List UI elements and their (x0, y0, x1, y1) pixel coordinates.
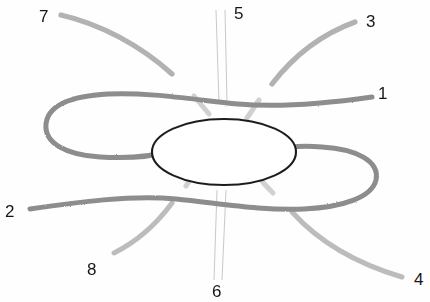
label-7: 7 (39, 8, 48, 25)
central-ellipse (152, 119, 296, 185)
label-4: 4 (414, 271, 423, 288)
diagonal-stroke-3 (272, 22, 355, 84)
diagonal-stroke-8 (114, 203, 172, 253)
label-3: 3 (366, 13, 375, 30)
figure-svg (0, 0, 430, 302)
label-1: 1 (378, 85, 387, 102)
diagonal-stroke-4 (292, 212, 402, 277)
diagram-canvas: 1 2 3 4 5 6 7 8 (0, 0, 430, 302)
thin-vertical-lines-5-group (216, 10, 227, 103)
thin-line-5b (225, 10, 227, 103)
label-5: 5 (234, 5, 243, 22)
diagonal-stroke-7 (61, 15, 172, 74)
thin-line-5a (216, 10, 219, 103)
label-6: 6 (212, 283, 221, 300)
label-8: 8 (87, 261, 96, 278)
label-2: 2 (5, 203, 14, 220)
